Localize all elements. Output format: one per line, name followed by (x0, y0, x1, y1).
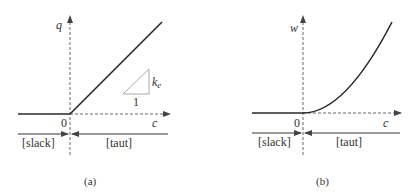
energy-curve (252, 22, 392, 113)
panel-a: ke 1 q c 0 [slack] [taut] (a) (18, 16, 170, 188)
slope-label: ke (152, 75, 161, 90)
taut-label: [taut] (106, 136, 132, 150)
y-axis-label: q (56, 18, 62, 32)
x-axis-label: c (152, 116, 158, 130)
taut-label: [taut] (336, 135, 362, 149)
run-label: 1 (133, 95, 139, 109)
caption-b: (b) (316, 175, 329, 188)
y-axis-label: w (290, 21, 298, 35)
caption-a: (a) (84, 175, 97, 188)
slope-triangle (123, 69, 149, 94)
figure: ke 1 q c 0 [slack] [taut] (a) w c 0 [sla… (0, 0, 417, 195)
slack-label: [slack] (22, 136, 55, 150)
x-axis-label: c (383, 116, 389, 130)
force-curve (18, 22, 162, 114)
origin-label: 0 (294, 116, 300, 130)
origin-label: 0 (61, 116, 67, 130)
slack-label: [slack] (258, 135, 291, 149)
panel-b: w c 0 [slack] [taut] (b) (252, 16, 401, 188)
